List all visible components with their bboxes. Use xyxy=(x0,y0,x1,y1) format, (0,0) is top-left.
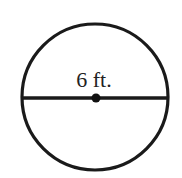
center-point xyxy=(92,94,101,103)
diameter-label: 6 ft. xyxy=(76,67,111,92)
circle-diagram: 6 ft. xyxy=(0,0,182,178)
